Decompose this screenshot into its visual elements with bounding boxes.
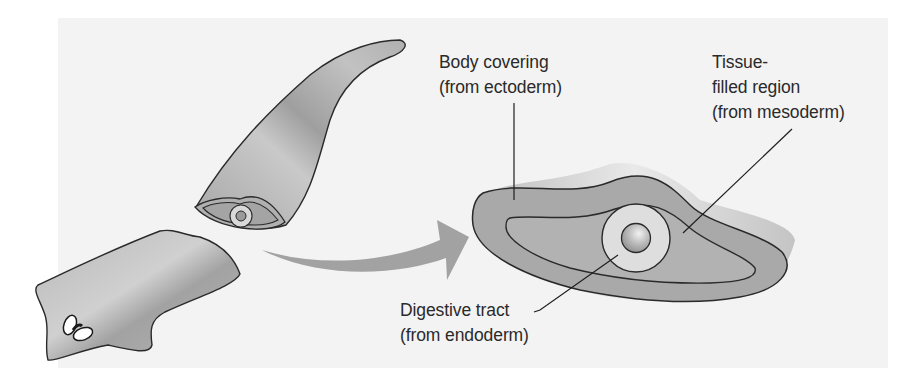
enlarged-cross-section bbox=[472, 163, 795, 301]
label-digestive-tract-line1: Digestive tract bbox=[400, 298, 529, 323]
flatworm-tail-segment bbox=[195, 40, 405, 229]
transition-arrow-icon bbox=[262, 220, 469, 280]
label-tissue-region-line3: (from mesoderm) bbox=[712, 100, 845, 125]
label-body-covering-line1: Body covering bbox=[439, 50, 562, 75]
flatworm-head-segment bbox=[36, 230, 240, 360]
label-digestive-tract-line2: (from endoderm) bbox=[400, 323, 529, 348]
label-digestive-tract: Digestive tract (from endoderm) bbox=[400, 298, 529, 348]
label-body-covering-line2: (from ectoderm) bbox=[439, 75, 562, 100]
label-body-covering: Body covering (from ectoderm) bbox=[439, 50, 562, 100]
diagram-figure: Body covering (from ectoderm) Tissue- fi… bbox=[0, 0, 899, 384]
label-tissue-region-line1: Tissue- bbox=[712, 50, 845, 75]
label-tissue-region-line2: filled region bbox=[712, 75, 845, 100]
label-tissue-region: Tissue- filled region (from mesoderm) bbox=[712, 50, 845, 125]
